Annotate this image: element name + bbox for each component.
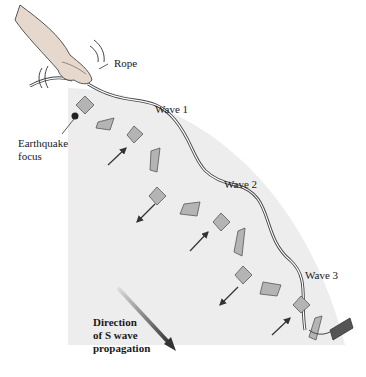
rope-label: Rope [114, 57, 137, 69]
s-wave-diagram: Rope Wave 1 Wave 2 Wave 3 Earthquake foc… [0, 0, 366, 377]
earthquake-focus-dot [72, 113, 79, 120]
direction-label-line1: Direction [93, 316, 137, 328]
hand-icon [15, 5, 92, 84]
direction-label-line2: of S wave [93, 329, 138, 341]
wave-2-label: Wave 2 [224, 178, 257, 190]
earthquake-focus-label-line2: focus [18, 150, 42, 162]
wave-1-label: Wave 1 [155, 103, 188, 115]
diagram-canvas [0, 0, 366, 377]
wave-3-label: Wave 3 [305, 269, 338, 281]
earthquake-focus-label-line1: Earthquake [18, 137, 68, 149]
direction-label-line3: propagation [93, 342, 150, 354]
